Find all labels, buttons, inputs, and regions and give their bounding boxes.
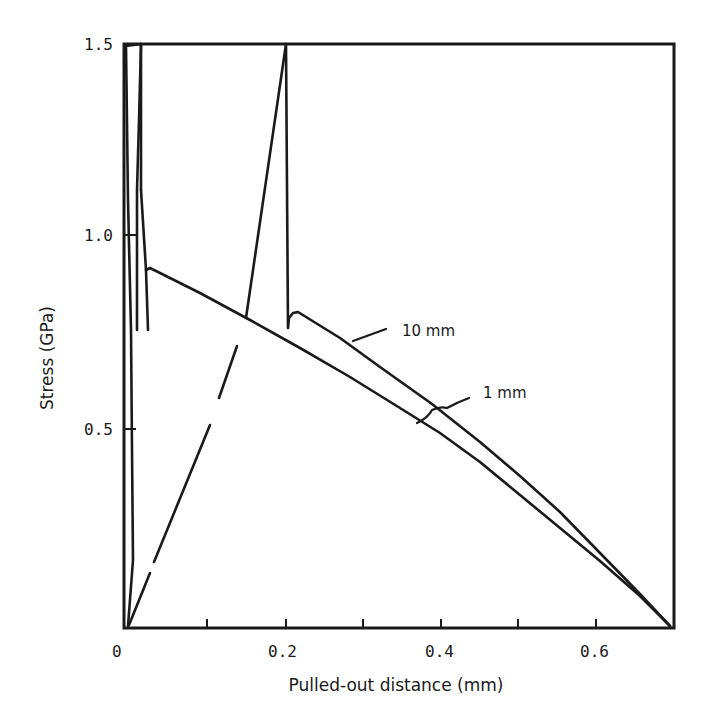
y-tick-1.0: 1.0: [84, 226, 113, 245]
y-tick-1.5: 1.5: [84, 35, 113, 54]
x-tick-0.4: 0.4: [425, 642, 454, 661]
y-axis-title: Stress (GPa): [37, 306, 57, 410]
x-tick-0.2: 0.2: [268, 642, 297, 661]
series-1mm-curve: [126, 44, 670, 626]
annotation-10mm: 10 mm: [353, 322, 455, 341]
series-10mm-curve: [129, 44, 670, 626]
plot-frame: [124, 44, 674, 628]
label-1mm: 1 mm: [483, 384, 527, 402]
label-10mm: 10 mm: [402, 322, 455, 340]
x-tick-0.6: 0.6: [580, 642, 609, 661]
x-axis-title: Pulled-out distance (mm): [289, 675, 504, 695]
stress-distance-chart: 1.5 1.0 0.5 0 0.2 0.4 0.6 Pulled-out dis…: [0, 0, 709, 721]
x-tick-0: 0: [112, 642, 122, 661]
y-tick-0.5: 0.5: [84, 420, 113, 439]
